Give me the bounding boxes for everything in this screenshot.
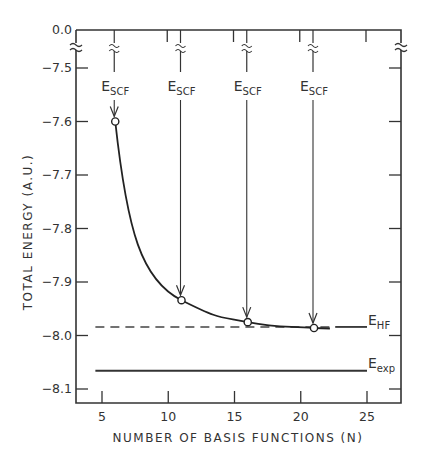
y-tick-label: −7.8 bbox=[42, 221, 72, 236]
reference-lines bbox=[95, 327, 367, 371]
escf-point-marker bbox=[112, 118, 119, 125]
escf-arrows: ESCFESCFESCFESCF bbox=[101, 30, 328, 323]
escf-label: ESCF bbox=[168, 78, 196, 97]
y-tick-label: −8.1 bbox=[42, 381, 72, 396]
escf-point-marker bbox=[310, 324, 317, 331]
escf-point-marker bbox=[178, 297, 185, 304]
y-tick-label: −7.7 bbox=[42, 167, 72, 182]
x-tick-label: 15 bbox=[227, 409, 243, 424]
x-tick-label: 20 bbox=[293, 409, 309, 424]
arrow-break-mark bbox=[308, 45, 318, 48]
energy-convergence-chart: 0.0−7.5−7.6−7.7−7.8−7.9−8.0−8.1 51015202… bbox=[0, 0, 429, 458]
escf-label: ESCF bbox=[234, 78, 262, 97]
arrow-break-mark bbox=[109, 45, 119, 48]
y-tick-label: 0.0 bbox=[52, 22, 72, 37]
ehf-label: EHF bbox=[368, 312, 390, 331]
arrow-break-mark bbox=[176, 45, 186, 48]
y-axis-title: TOTAL ENERGY (A.U.) bbox=[21, 154, 35, 311]
y-tick-label: −7.5 bbox=[42, 60, 72, 75]
y-tick-label: −8.0 bbox=[42, 328, 72, 343]
y-axis-ticks: 0.0−7.5−7.6−7.7−7.8−7.9−8.0−8.1 bbox=[42, 22, 401, 396]
x-tick-label: 25 bbox=[359, 409, 375, 424]
escf-label: ESCF bbox=[300, 78, 328, 97]
inline-labels: EHFEexp bbox=[368, 312, 395, 374]
escf-label: ESCF bbox=[101, 78, 129, 97]
escf-line bbox=[115, 122, 330, 329]
x-tick-label: 10 bbox=[160, 409, 176, 424]
x-axis-title: NUMBER OF BASIS FUNCTIONS (N) bbox=[113, 431, 364, 445]
y-tick-label: −7.9 bbox=[42, 274, 72, 289]
escf-curve bbox=[112, 118, 330, 332]
x-tick-label: 5 bbox=[98, 409, 106, 424]
arrow-break-mark bbox=[242, 45, 252, 48]
eexp-label: Eexp bbox=[368, 355, 395, 374]
escf-point-marker bbox=[244, 319, 251, 326]
y-tick-label: −7.6 bbox=[42, 114, 72, 129]
